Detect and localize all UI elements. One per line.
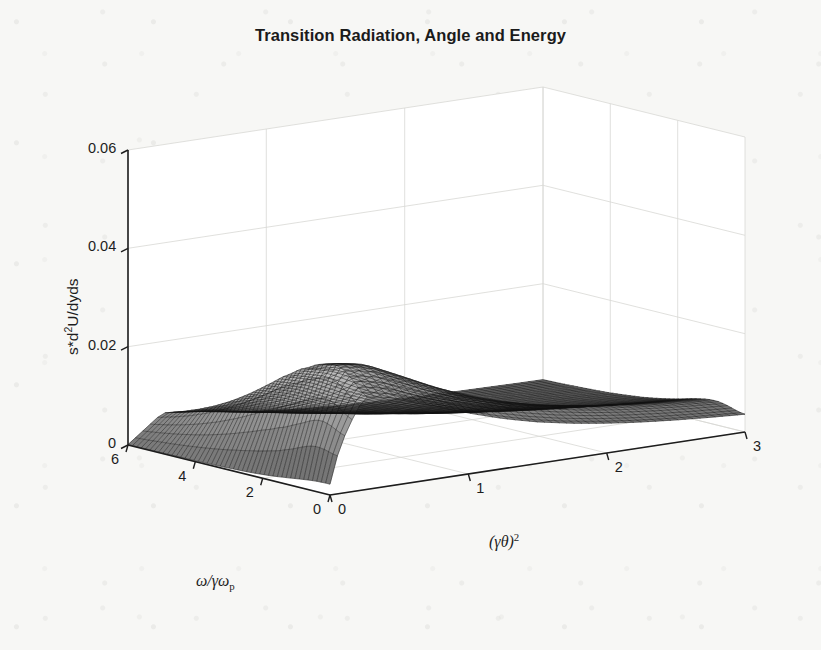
x-tick-label: 0 bbox=[338, 501, 346, 517]
y-tick bbox=[261, 478, 263, 485]
x-tick bbox=[745, 432, 747, 439]
z-tick-label: 0.04 bbox=[88, 238, 116, 254]
x-tick-label: 2 bbox=[615, 459, 623, 475]
z-axis-label-sup: 2 bbox=[62, 327, 74, 333]
z-tick-label: 0.06 bbox=[88, 140, 116, 156]
y-tick-label: 6 bbox=[111, 451, 119, 467]
y-axis-label-omega2: ω bbox=[218, 572, 229, 589]
back-wall-y bbox=[543, 87, 745, 432]
x-axis-label-exponent: 2 bbox=[514, 531, 519, 543]
page-title: Transition Radiation, Angle and Energy bbox=[0, 26, 821, 45]
y-axis-label-subscript: p bbox=[229, 580, 234, 592]
z-tick bbox=[121, 248, 128, 252]
x-tick bbox=[468, 474, 470, 481]
x-axis-label-theta: θ bbox=[501, 533, 509, 550]
z-axis-label-pre: s*d bbox=[64, 333, 81, 355]
x-axis-label: (γθ)2 bbox=[489, 531, 519, 551]
y-tick-label: 0 bbox=[313, 501, 321, 517]
z-tick bbox=[121, 150, 128, 154]
z-tick bbox=[121, 347, 128, 351]
y-axis-label-omega: ω bbox=[196, 572, 207, 589]
y-tick-label: 2 bbox=[246, 484, 254, 500]
x-tick-label: 1 bbox=[476, 480, 484, 496]
z-tick-label: 0.02 bbox=[88, 337, 116, 353]
z-axis-label-post: U/dyds bbox=[64, 278, 81, 326]
z-axis-label: s*d2U/dyds bbox=[62, 278, 82, 355]
x-tick bbox=[607, 453, 609, 460]
y-tick-label: 4 bbox=[178, 468, 186, 484]
figure-canvas: Transition Radiation, Angle and Energy s… bbox=[0, 0, 821, 650]
x-tick bbox=[330, 495, 332, 502]
surface-plot bbox=[0, 0, 821, 650]
y-tick bbox=[193, 462, 195, 469]
y-axis-label: ω/γωp bbox=[196, 572, 235, 592]
z-tick-label: 0 bbox=[108, 435, 116, 451]
x-tick-label: 3 bbox=[753, 438, 761, 454]
